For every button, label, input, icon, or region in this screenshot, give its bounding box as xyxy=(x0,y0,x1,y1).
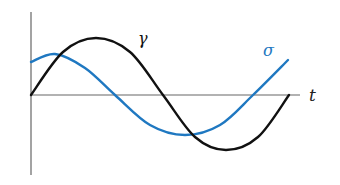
gamma-label: γ xyxy=(138,29,148,48)
t-axis-label: t xyxy=(309,85,316,105)
sigma-label: σ xyxy=(263,41,275,60)
sinusoid-diagram: γ σ t xyxy=(0,0,340,185)
gamma-curve xyxy=(31,38,289,150)
